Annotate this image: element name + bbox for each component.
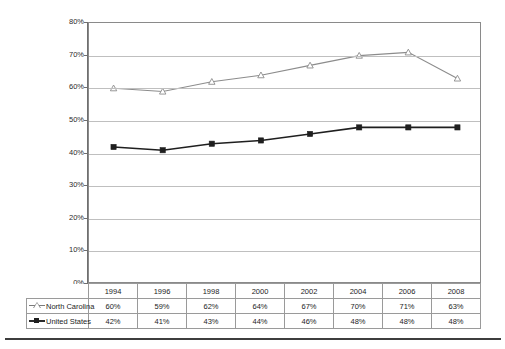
data-point-marker: [454, 75, 460, 81]
table-cell: 48%: [334, 314, 383, 329]
y-axis-tick-label: 10%: [50, 246, 84, 254]
table-column-header: 2004: [334, 284, 383, 299]
data-table: 19941996199820002002200420062008North Ca…: [26, 283, 481, 329]
table-row: North Carolina60%59%62%64%67%70%71%63%: [27, 299, 481, 314]
y-axis-tick-mark: [84, 22, 88, 23]
legend-cell-2: United States: [27, 314, 89, 329]
data-point-marker: [209, 141, 214, 146]
plot-area: [88, 22, 481, 283]
gridline: [89, 251, 480, 252]
legend-label: United States: [46, 317, 91, 326]
table-cell: 46%: [285, 314, 334, 329]
table-column-header: 2008: [432, 284, 481, 299]
table-column-header: 1996: [138, 284, 187, 299]
y-axis-tick-mark: [84, 185, 88, 186]
table-cell: 43%: [187, 314, 236, 329]
table-cell: 44%: [236, 314, 285, 329]
y-axis-tick-mark: [84, 218, 88, 219]
gridline: [89, 121, 480, 122]
y-axis-tick-labels: 0%10%20%30%40%50%60%70%80%: [48, 22, 84, 283]
bottom-divider-rule: [5, 338, 501, 340]
data-point-marker: [406, 125, 411, 130]
table-cell: 42%: [89, 314, 138, 329]
legend-square-glyph: [34, 318, 39, 323]
table-row: United States42%41%43%44%46%48%48%48%: [27, 314, 481, 329]
table-cell: 62%: [187, 299, 236, 314]
gridline: [89, 186, 480, 187]
legend-cell-1: North Carolina: [27, 299, 89, 314]
gridline: [89, 56, 480, 57]
table-column-header: 2000: [236, 284, 285, 299]
y-axis-tick-mark: [84, 120, 88, 121]
y-axis-tick-label: 80%: [50, 18, 84, 26]
data-point-marker: [111, 144, 116, 149]
table-corner-cell: [27, 284, 89, 299]
y-axis-tick-label: 70%: [50, 51, 84, 59]
y-axis-tick-mark: [84, 87, 88, 88]
table-cell: 67%: [285, 299, 334, 314]
table-cell: 70%: [334, 299, 383, 314]
y-axis-tick-label: 20%: [50, 214, 84, 222]
legend-label: North Carolina: [46, 302, 94, 311]
legend-triangle-fill-glyph: [34, 303, 40, 308]
y-axis-tick-label: 40%: [50, 149, 84, 157]
table-cell: 59%: [138, 299, 187, 314]
data-point-marker: [307, 131, 312, 136]
data-point-marker: [160, 148, 165, 153]
open-triangle-marker: [29, 302, 45, 310]
gridline: [89, 88, 480, 89]
table-cell: 71%: [383, 299, 432, 314]
series-line-1: [114, 52, 458, 91]
table-cell: 63%: [432, 299, 481, 314]
line-chart-figure: 0%10%20%30%40%50%60%70%80% 1994199619982…: [0, 0, 505, 349]
y-axis-tick-mark: [84, 250, 88, 251]
y-axis-tick-label: 30%: [50, 181, 84, 189]
filled-square-marker: [29, 317, 45, 325]
gridline: [89, 219, 480, 220]
y-axis-tick-mark: [84, 283, 88, 284]
table-column-header: 2006: [383, 284, 432, 299]
y-axis-tick-label: 50%: [50, 116, 84, 124]
gridline: [89, 154, 480, 155]
table-column-header: 1994: [89, 284, 138, 299]
table-cell: 64%: [236, 299, 285, 314]
table-cell: 41%: [138, 314, 187, 329]
data-point-marker: [455, 125, 460, 130]
table-column-header: 1998: [187, 284, 236, 299]
y-axis-tick-label: 60%: [50, 83, 84, 91]
data-point-marker: [258, 138, 263, 143]
y-axis-tick-mark: [84, 55, 88, 56]
table-cell: 48%: [383, 314, 432, 329]
y-axis-tick-mark: [84, 153, 88, 154]
series-line-2: [114, 127, 458, 150]
table-cell: 60%: [89, 299, 138, 314]
data-point-marker: [357, 125, 362, 130]
table-header-row: 19941996199820002002200420062008: [27, 284, 481, 299]
table-column-header: 2002: [285, 284, 334, 299]
table-cell: 48%: [432, 314, 481, 329]
